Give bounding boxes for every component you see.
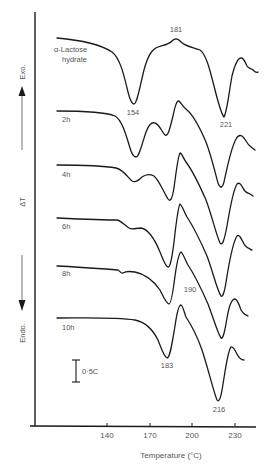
dsc-thermogram-chart: 140 170 200 230 Temperature (°C) Exo. ΔT…: [0, 0, 274, 471]
curve-lactose-hydrate: [57, 38, 258, 117]
curve-4h: [57, 153, 253, 244]
curve-label-6h: 6h: [62, 222, 70, 231]
curve-label-8h: 8h: [62, 269, 70, 278]
endo-label: Endo.: [18, 323, 27, 343]
curve-label-lactose-line1: α-Lactose: [54, 45, 87, 54]
curve-10h: [57, 305, 244, 401]
endo-arrow-icon: [19, 300, 26, 311]
curve-8h: [57, 252, 248, 338]
curve-label-lactose-line2: hydrate: [62, 55, 87, 64]
curve-label-4h: 4h: [62, 170, 70, 179]
curve-label-10h: 10h: [62, 323, 75, 332]
annotation-190: 190: [184, 285, 197, 294]
x-tick-label-140: 140: [100, 431, 114, 440]
exo-arrow-icon: [19, 86, 26, 96]
x-ticks: [107, 423, 235, 426]
x-axis: [30, 426, 256, 427]
x-tick-label-230: 230: [228, 431, 242, 440]
annotation-181: 181: [170, 25, 183, 34]
annotation-216: 216: [213, 405, 226, 414]
x-tick-label-170: 170: [143, 431, 157, 440]
annotation-183: 183: [161, 361, 174, 370]
scale-bar: [72, 360, 80, 382]
delta-t-label: ΔT: [18, 197, 27, 207]
x-axis-title: Temperature (°C): [140, 451, 202, 460]
curve-label-2h: 2h: [62, 115, 70, 124]
annotation-154: 154: [127, 108, 140, 117]
x-tick-label-200: 200: [185, 431, 199, 440]
exo-label: Exo.: [18, 64, 27, 79]
annotation-221: 221: [220, 120, 233, 129]
scale-bar-label: 0·5C: [82, 367, 99, 376]
